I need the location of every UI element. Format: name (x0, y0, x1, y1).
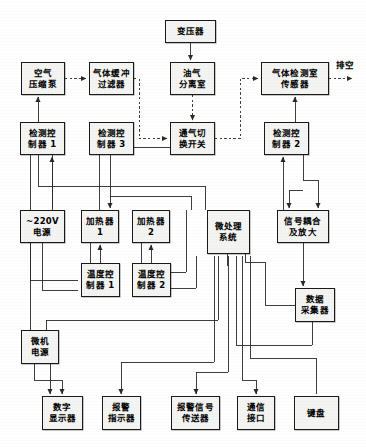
node-digital-display-line-2: 显示器 (49, 413, 77, 424)
node-transformer-line-1: 变压器 (177, 26, 205, 37)
node-oil-gas-separator-line-1: 油气 (183, 68, 202, 79)
node-alarm-indicator[interactable]: 报警 指示器 (102, 396, 141, 430)
node-temp-controller-2[interactable]: 温度控 制器 2 (132, 263, 171, 297)
node-keyboard[interactable]: 键盘 (294, 396, 339, 430)
node-alarm-indicator-line-1: 报警 (112, 402, 131, 413)
node-temp-controller-2-line-1: 温度控 (138, 269, 166, 280)
node-vent-switch[interactable]: 通气切 换开关 (170, 122, 215, 155)
node-temp-controller-1-line-1: 温度控 (87, 269, 115, 280)
node-heater-1[interactable]: 加热器 1 (81, 210, 119, 243)
node-heater-2[interactable]: 加热器 2 (132, 210, 170, 243)
node-heater-1-line-2: 1 (97, 227, 103, 238)
node-data-collector[interactable]: 数据 采集器 (295, 288, 335, 322)
node-controller-2-line-1: 检测控 (273, 128, 301, 139)
node-data-collector-line-1: 数据 (306, 294, 325, 305)
node-digital-display[interactable]: 数字 显示器 (42, 396, 83, 430)
vent-exhaust-label: 排空 (336, 60, 355, 70)
node-heater-1-line-1: 加热器 (86, 216, 114, 227)
node-pc-power-line-2: 电源 (31, 347, 50, 358)
node-controller-2[interactable]: 检测控 制器 2 (264, 122, 309, 155)
node-signal-amp-line-2: 及放大 (289, 227, 317, 238)
node-temp-controller-2-line-2: 制器 2 (137, 280, 165, 291)
node-data-collector-line-2: 采集器 (301, 305, 329, 316)
node-alarm-transmitter-line-2: 传送器 (182, 413, 210, 424)
node-temp-controller-1[interactable]: 温度控 制器 1 (81, 263, 120, 297)
node-digital-display-line-1: 数字 (53, 402, 72, 413)
node-oil-gas-separator-line-2: 分离室 (179, 79, 207, 90)
node-alarm-transmitter-line-1: 报警信号 (177, 402, 214, 413)
node-controller-3-line-2: 制器 3 (97, 139, 125, 150)
node-controller-3-line-1: 检测控 (98, 128, 126, 139)
node-gas-buffer-filter-line-1: 气体缓冲 (93, 68, 130, 79)
node-pc-power[interactable]: 微机 电源 (21, 330, 59, 364)
node-heater-2-line-1: 加热器 (137, 216, 165, 227)
node-alarm-transmitter[interactable]: 报警信号 传送器 (171, 396, 220, 430)
node-micro-system[interactable]: 微处理 系统 (207, 210, 250, 254)
node-signal-amp[interactable]: 信号耦合 及放大 (277, 210, 329, 243)
node-comm-interface-line-2: 接口 (247, 413, 266, 424)
block-diagram-canvas: 变压器 空气 压缩泵 气体缓冲 过滤器 油气 分离室 气体检测室 传感器 检测控… (0, 0, 366, 447)
node-vent-switch-line-1: 通气切 (179, 128, 207, 139)
node-heater-2-line-2: 2 (148, 227, 154, 238)
node-power-220v-line-1: ~220V (26, 216, 59, 227)
node-gas-buffer-filter[interactable]: 气体缓冲 过滤器 (89, 62, 134, 95)
node-gas-sensor[interactable]: 气体检测室 传感器 (261, 62, 329, 95)
node-controller-2-line-2: 制器 2 (272, 139, 300, 150)
node-transformer[interactable]: 变压器 (165, 20, 216, 43)
node-controller-3[interactable]: 检测控 制器 3 (89, 122, 134, 155)
node-micro-system-line-1: 微处理 (215, 221, 243, 232)
node-keyboard-line-1: 键盘 (307, 408, 326, 419)
node-micro-system-line-2: 系统 (219, 232, 238, 243)
node-air-compressor-line-1: 空气 (34, 68, 53, 79)
node-gas-sensor-line-2: 传感器 (281, 79, 309, 90)
node-vent-switch-line-2: 换开关 (179, 139, 207, 150)
node-signal-amp-line-1: 信号耦合 (284, 216, 321, 227)
node-comm-interface[interactable]: 通信 接口 (237, 396, 275, 430)
node-oil-gas-separator[interactable]: 油气 分离室 (170, 62, 215, 95)
node-gas-buffer-filter-line-2: 过滤器 (98, 79, 126, 90)
node-controller-1-line-1: 检测控 (29, 128, 57, 139)
node-comm-interface-line-1: 通信 (247, 402, 266, 413)
node-air-compressor-line-2: 压缩泵 (29, 79, 57, 90)
node-alarm-indicator-line-2: 指示器 (108, 413, 136, 424)
node-controller-1[interactable]: 检测控 制器 1 (20, 122, 65, 155)
node-temp-controller-1-line-2: 制器 1 (86, 280, 114, 291)
node-controller-1-line-2: 制器 1 (28, 139, 56, 150)
node-power-220v[interactable]: ~220V 电源 (20, 210, 65, 243)
node-air-compressor[interactable]: 空气 压缩泵 (21, 62, 65, 95)
node-power-220v-line-2: 电源 (33, 227, 52, 238)
node-gas-sensor-line-1: 气体检测室 (272, 68, 319, 79)
node-pc-power-line-1: 微机 (31, 336, 50, 347)
